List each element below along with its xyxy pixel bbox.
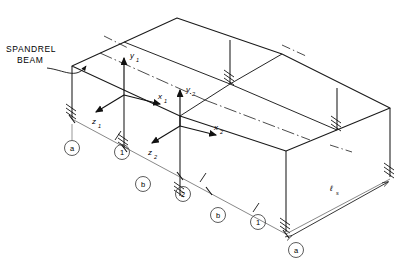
grid-marker-circles [65, 141, 304, 258]
hatch-right-rear [384, 163, 394, 178]
centreline-d [255, 68, 360, 122]
cl-leader-mid-right [330, 145, 352, 152]
axis-label-x2: x [213, 123, 219, 132]
hatch-front-right [280, 218, 290, 233]
dimension-ls-line [291, 182, 388, 236]
grid-marker-label-1-right: 1 [256, 218, 260, 227]
dimension-label-ls: ℓ [329, 184, 333, 193]
grid-marker-label-a-left: a [70, 144, 75, 153]
columns [72, 40, 390, 232]
axis-z2-arrow [152, 126, 180, 143]
spandrel-beam-label-line1: SPANDREL [6, 44, 56, 54]
support-hatch-marks [66, 70, 394, 233]
axis-sublabel-x2: 2 [219, 129, 223, 135]
diagram-canvas: SPANDREL BEAM y 1 x 1 z 1 y 2 x 2 z 2 ℓ … [0, 0, 397, 266]
centreline-c [152, 30, 258, 68]
leader-2-left [200, 173, 206, 182]
gridline-front-right-chain [286, 179, 390, 234]
axis-sublabel-y1: 1 [136, 57, 139, 63]
dimension-ls [291, 182, 388, 236]
axis-label-z1: z [91, 117, 96, 126]
axis-sublabel-y2: 2 [191, 91, 195, 97]
leader-1-right [253, 203, 259, 212]
axis-sublabel-z1: 1 [98, 123, 101, 129]
grid-chain-ticks [69, 115, 340, 238]
axis-x2-arrow [180, 126, 216, 135]
axis-label-z2: z [147, 148, 152, 157]
cl-leader-top-right [282, 45, 306, 56]
grid-marker-label-b-right: b [216, 211, 220, 220]
grid-marker-label-1-left: 1 [120, 148, 124, 157]
beamline-transverse-mid-a [230, 54, 282, 84]
grid-marker-label-b-left: b [141, 180, 145, 189]
isometric-frame-drawing: SPANDREL BEAM y 1 x 1 z 1 y 2 x 2 z 2 ℓ … [0, 0, 397, 266]
axis-sublabel-z2: 2 [153, 154, 157, 160]
grid-marker-label-a-bottom: a [294, 246, 299, 255]
axis-label-y1: y [129, 51, 135, 60]
grid-marker-stems [72, 124, 296, 242]
grid-leader-ticks [115, 131, 336, 212]
stem-a-bottom [291, 237, 296, 242]
axis-label-y2: y [185, 85, 191, 94]
grid-dimension-lines [72, 119, 390, 234]
dimension-sublabel-ls: s [336, 190, 339, 196]
tick-2-left [206, 187, 212, 195]
slab-transverse-lines [75, 18, 282, 116]
axis-sublabel-x1: 1 [164, 98, 167, 104]
centreline-leaders [104, 36, 352, 152]
spandrel-beam-label-line2: BEAM [17, 55, 44, 65]
axis-label-x1: x [157, 92, 163, 101]
grid-marker-label-2: 2 [181, 190, 185, 199]
axis-x1-arrow [124, 95, 160, 104]
gridline-front-left-chain [72, 119, 286, 234]
coordinate-system-1 [96, 58, 160, 112]
axis-z1-arrow [96, 95, 124, 112]
